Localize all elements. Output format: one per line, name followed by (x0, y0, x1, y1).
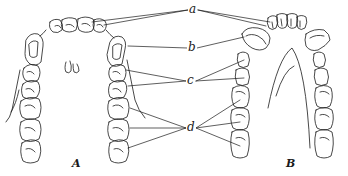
label-c-premolars: c (186, 74, 195, 86)
arch-a (6, 17, 145, 163)
arch-b (231, 14, 334, 159)
caption-arch-b: B (286, 158, 295, 169)
arch-a-incisors (40, 17, 114, 38)
arch-a-palate-mark (65, 61, 79, 73)
label-b-canine: b (187, 41, 197, 53)
arch-a-cheek-teeth-left (6, 64, 41, 163)
leader-lines (92, 10, 270, 148)
arch-b-incisors (267, 14, 307, 30)
label-d-molars: d (186, 121, 196, 133)
dental-arch-comparison-diagram: a b c d A B (0, 0, 348, 176)
arch-a-canine-left (25, 34, 43, 66)
caption-arch-a: A (72, 158, 81, 169)
diagram-drawing (0, 0, 348, 176)
arch-b-canine-left (242, 28, 270, 50)
label-a-incisors: a (188, 3, 197, 15)
arch-b-cheek-teeth-left (231, 52, 250, 158)
arch-a-canine-right (107, 36, 126, 66)
arch-b-cheek-teeth-right (313, 52, 333, 158)
arch-b-canine-right (305, 30, 330, 51)
arch-b-palate-outline (268, 48, 310, 148)
